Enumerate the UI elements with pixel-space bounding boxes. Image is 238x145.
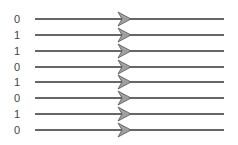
bit-line-1 [35, 28, 224, 42]
bit-label: 0 [12, 13, 22, 25]
bit-label: 1 [12, 45, 22, 57]
bit-line-3 [35, 60, 224, 74]
bit-label: 1 [12, 76, 22, 88]
bit-line-2 [35, 44, 224, 58]
bit-line-7 [35, 123, 224, 137]
bit-line-6 [35, 107, 224, 121]
bit-label: 0 [12, 61, 22, 73]
bit-line-0 [35, 12, 224, 26]
bit-label: 0 [12, 92, 22, 104]
lines-canvas [0, 0, 238, 145]
bit-label: 1 [12, 108, 22, 120]
bit-line-4 [35, 75, 224, 89]
bit-line-5 [35, 91, 224, 105]
bit-label: 1 [12, 29, 22, 41]
bit-label: 0 [12, 124, 22, 136]
